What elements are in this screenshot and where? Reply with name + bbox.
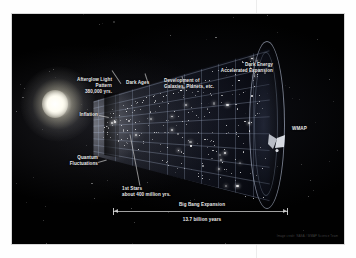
label-afterglow-light-pattern: Afterglow Light Pattern 380,000 yrs.	[52, 77, 112, 96]
background-star	[20, 84, 21, 85]
background-star	[215, 37, 216, 38]
timeline-end-cap	[287, 208, 288, 215]
background-star	[83, 14, 84, 15]
background-star	[26, 202, 27, 203]
label-dark-ages: Dark Ages	[126, 80, 166, 86]
label-duration: 13.7 billion years	[132, 217, 272, 223]
background-star	[132, 243, 133, 244]
screenshot-root: Afterglow Light Pattern 380,000 yrs. Dar…	[0, 0, 356, 258]
background-star	[329, 79, 330, 80]
background-star	[170, 35, 171, 36]
image-credit: Image credit: NASA / WMAP Science Team	[277, 234, 338, 238]
background-star	[315, 122, 316, 123]
label-big-bang-expansion: Big Bang Expansion	[132, 202, 272, 208]
background-star	[317, 39, 318, 40]
background-star	[333, 101, 334, 102]
background-star	[292, 98, 293, 99]
background-star	[313, 190, 314, 191]
timeline-right-arrow	[283, 209, 287, 213]
background-star	[46, 243, 47, 244]
label-wmap: WMAP	[292, 126, 322, 132]
label-first-stars: 1st Stars about 400 million yrs.	[122, 186, 202, 198]
timeline-left-arrow	[114, 209, 118, 213]
label-quantum-fluctuations: Quantum Fluctuations	[46, 155, 98, 167]
background-star	[299, 99, 300, 100]
background-star	[45, 206, 46, 207]
background-star	[301, 164, 302, 165]
timeline-bar	[113, 211, 288, 212]
background-star	[168, 212, 169, 213]
background-star	[99, 24, 100, 25]
galaxy-point	[245, 196, 246, 197]
background-star	[277, 32, 278, 33]
background-star	[337, 150, 338, 151]
label-dark-energy: Dark Energy Accelerated Expansion	[187, 62, 273, 74]
background-star	[43, 220, 44, 221]
background-star	[225, 243, 226, 244]
background-star	[233, 17, 234, 18]
background-star	[102, 23, 103, 24]
background-star	[329, 161, 330, 162]
background-star	[113, 21, 114, 22]
background-star	[33, 177, 34, 178]
background-star	[308, 196, 309, 197]
background-star	[303, 230, 304, 231]
background-star	[16, 183, 17, 184]
background-star	[267, 15, 268, 16]
background-star	[16, 111, 17, 112]
dark-ages-band	[104, 91, 119, 159]
poster-frame: Afterglow Light Pattern 380,000 yrs. Dar…	[11, 13, 345, 245]
background-star	[289, 87, 290, 88]
galaxy-point	[253, 198, 254, 199]
universe-timeline-poster: Afterglow Light Pattern 380,000 yrs. Dar…	[12, 14, 344, 244]
label-inflation: Inflation	[50, 112, 98, 118]
label-development-of-galaxies: Development of Galaxies, Planets, etc.	[164, 78, 234, 90]
background-star	[310, 180, 311, 181]
